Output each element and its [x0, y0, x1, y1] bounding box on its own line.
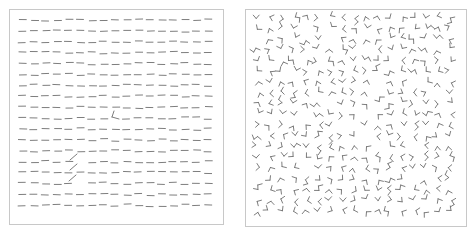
- angle-element: [416, 210, 417, 214]
- angle-element: [343, 25, 346, 29]
- angle-element: [330, 144, 332, 148]
- angle-element: [303, 184, 307, 185]
- angle-element: [292, 82, 293, 86]
- angle-element: [281, 196, 285, 198]
- angle-element: [258, 137, 261, 140]
- angle-element: [317, 27, 318, 31]
- angle-element: [258, 212, 260, 216]
- angle-element: [389, 93, 393, 94]
- angle-element: [354, 146, 357, 149]
- angle-element: [256, 124, 259, 127]
- angle-element: [342, 17, 345, 20]
- angle-element: [377, 169, 378, 173]
- angle-element: [269, 104, 273, 106]
- angle-element: [388, 164, 390, 168]
- angle-element: [401, 142, 403, 146]
- angle-element: [318, 158, 322, 159]
- angle-element: [438, 199, 442, 201]
- angle-element: [282, 167, 286, 168]
- angle-element: [387, 114, 391, 115]
- stimulus-panel-left: [9, 9, 224, 225]
- angle-element: [352, 146, 354, 150]
- angle-element: [257, 200, 261, 201]
- angle-element: [361, 92, 365, 95]
- angle-element: [318, 207, 321, 211]
- angle-element: [256, 82, 259, 85]
- angle-element: [317, 154, 318, 158]
- angle-element: [337, 102, 341, 104]
- angle-element: [401, 154, 405, 156]
- angle-element: [339, 147, 340, 151]
- angle-element: [257, 25, 258, 29]
- angle-element: [257, 164, 259, 168]
- angle-element: [294, 93, 296, 97]
- angle-element: [284, 153, 287, 156]
- angle-element: [281, 87, 283, 91]
- angle-element: [451, 112, 455, 114]
- angle-element: [294, 143, 297, 147]
- angle-element: [277, 46, 281, 48]
- angle-element: [448, 147, 451, 150]
- angle-element: [270, 94, 273, 97]
- angle-element: [253, 60, 257, 61]
- angle-element: [329, 113, 333, 114]
- angle-element: [294, 207, 295, 211]
- angle-element: [386, 168, 390, 170]
- angle-element: [428, 82, 432, 83]
- angle-element: [391, 178, 395, 180]
- angle-element: [325, 124, 329, 126]
- angle-element: [402, 210, 406, 211]
- angle-element: [376, 66, 377, 70]
- angle-element: [315, 136, 319, 138]
- angle-element: [415, 190, 419, 191]
- angle-element: [436, 60, 438, 64]
- angle-element: [437, 188, 440, 191]
- stimulus-panel-right: [245, 9, 467, 227]
- angle-element: [281, 199, 283, 203]
- angle-element: [269, 29, 273, 31]
- angle-element: [437, 186, 441, 189]
- angle-element: [254, 212, 258, 215]
- angle-element: [388, 185, 392, 188]
- angle-element: [303, 69, 307, 71]
- target-diagonal-element: [70, 164, 77, 170]
- angle-element: [421, 48, 425, 51]
- angle-element: [295, 132, 297, 136]
- angle-element: [401, 37, 405, 38]
- angle-element: [437, 199, 438, 203]
- angle-element: [296, 35, 300, 37]
- angle-element: [293, 126, 294, 130]
- angle-element: [445, 25, 449, 26]
- angle-element: [397, 137, 400, 140]
- angle-element: [329, 92, 332, 96]
- angle-element: [425, 143, 429, 145]
- angle-element: [438, 175, 442, 178]
- angle-element: [398, 201, 402, 202]
- angle-element: [291, 24, 293, 28]
- angle-element: [314, 113, 316, 117]
- angle-element: [350, 57, 353, 60]
- angle-element: [415, 70, 417, 74]
- angle-element: [314, 26, 318, 27]
- angle-element: [384, 206, 385, 210]
- angle-element: [307, 61, 308, 65]
- angle-element: [271, 156, 275, 157]
- angle-element: [294, 191, 295, 195]
- angle-element: [401, 89, 403, 93]
- angle-element: [252, 155, 256, 157]
- angle-element: [267, 201, 271, 203]
- angle-element: [341, 100, 343, 104]
- angle-element: [408, 69, 411, 72]
- angle-element: [318, 71, 319, 75]
- angle-element: [284, 135, 285, 139]
- angle-element: [351, 200, 355, 202]
- angle-element: [361, 122, 365, 124]
- angle-element: [446, 147, 448, 151]
- angle-element: [365, 57, 369, 59]
- angle-element: [331, 206, 332, 210]
- angle-element: [254, 189, 258, 190]
- angle-element: [281, 44, 283, 48]
- angle-element: [428, 111, 432, 112]
- angle-element: [403, 17, 407, 18]
- angle-element: [280, 121, 282, 125]
